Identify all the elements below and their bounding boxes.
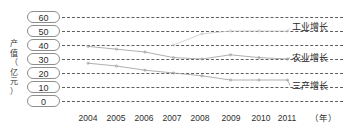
gridline-40: [62, 45, 343, 46]
y-axis-label-char: 亿: [10, 68, 18, 78]
x-tick-2005: 2005: [107, 113, 126, 123]
y-tick-50: 50: [27, 25, 60, 37]
series-points-industrial: [172, 30, 288, 46]
y-axis-label-char: 产: [10, 39, 18, 49]
x-tick-2008: 2008: [191, 113, 210, 123]
y-axis-label-char: （: [10, 58, 18, 68]
y-tick-30: 30: [27, 53, 60, 65]
y-tick-0: 0: [27, 95, 60, 107]
x-tick-2011: 2011: [278, 113, 296, 123]
gridline-60: [62, 17, 343, 18]
gridline-0: [62, 101, 343, 102]
y-tick-10: 10: [27, 81, 60, 93]
x-axis-unit-label: （年）: [310, 113, 337, 123]
x-tick-2010: 2010: [252, 113, 271, 123]
x-tick-2004: 2004: [79, 113, 98, 123]
y-tick-60: 60: [27, 11, 60, 23]
series-label-industrial: 工业增长: [292, 22, 328, 33]
x-tick-2007: 2007: [163, 113, 182, 123]
series-line-agriculture: [87, 45, 290, 60]
y-tick-40: 40: [27, 39, 60, 51]
y-axis-label-char: 值: [10, 49, 18, 59]
series-points-agriculture: [87, 45, 289, 60]
y-tick-20: 20: [27, 67, 60, 79]
series-points-tertiary: [87, 62, 289, 81]
y-axis-label: 产 值 （ 亿 元 ）: [7, 20, 21, 115]
gridline-20: [62, 73, 343, 74]
series-label-tertiary: 三产增长: [292, 81, 328, 92]
chart-screenshot: 产 值 （ 亿 元 ） 60 50 40 30 20 10 0 工业增长 农业增…: [0, 0, 351, 135]
x-tick-2009: 2009: [222, 113, 241, 123]
y-axis-label-char: 元: [10, 77, 18, 87]
x-tick-2006: 2006: [135, 113, 154, 123]
series-label-agriculture: 农业增长: [292, 53, 328, 64]
y-axis-label-char: ）: [10, 87, 18, 97]
